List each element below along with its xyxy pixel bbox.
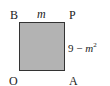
side-exponent: 2 <box>93 41 97 49</box>
vertex-label-b: B <box>10 9 18 21</box>
side-operator: − <box>76 42 82 54</box>
vertex-label-a: A <box>69 75 78 86</box>
side-constant: 9 <box>68 42 74 54</box>
vertex-label-p: P <box>69 9 76 21</box>
top-side-label: m <box>37 8 46 20</box>
side-variable: m <box>85 42 93 54</box>
right-side-label: 9 − m2 <box>68 42 97 54</box>
vertex-label-o: O <box>9 75 18 86</box>
shaded-square <box>19 22 65 71</box>
diagram-canvas: B P O A m 9 − m2 <box>0 0 110 86</box>
